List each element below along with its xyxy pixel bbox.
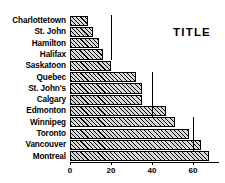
bar-row	[70, 72, 218, 83]
bar	[70, 95, 142, 105]
bar	[70, 117, 175, 127]
bar-row	[70, 128, 218, 139]
x-tick-label: 20	[107, 166, 116, 175]
category-label: Toronto	[36, 128, 66, 139]
category-label: St. John	[35, 26, 67, 37]
category-label: St. John's	[28, 83, 66, 94]
bar-row	[70, 139, 218, 150]
x-tick-label: 0	[68, 166, 72, 175]
category-label: Vancouver	[25, 139, 66, 150]
bar-row	[70, 83, 218, 94]
category-axis-labels: CharlottetownSt. JohnHamiltonHalifaxSask…	[0, 15, 68, 162]
bar-chart: TITLE CharlottetownSt. JohnHamiltonHalif…	[0, 0, 225, 183]
category-label: Montreal	[33, 151, 66, 162]
category-label: Quebec	[37, 72, 66, 83]
bar	[70, 49, 103, 59]
bar-row	[70, 105, 218, 116]
bar-row	[70, 38, 218, 49]
bar	[70, 72, 136, 82]
bar-row	[70, 49, 218, 60]
category-label: Hamilton	[32, 38, 66, 49]
bar	[70, 38, 99, 48]
category-label: Halifax	[40, 49, 66, 60]
bar	[70, 151, 209, 161]
x-tick-mark	[152, 162, 153, 165]
x-tick-mark	[193, 162, 194, 165]
bar	[70, 27, 93, 37]
bar-row	[70, 117, 218, 128]
plot-area	[70, 15, 218, 162]
category-label: Saskatoon	[25, 60, 66, 71]
bar-row	[70, 26, 218, 37]
category-label: Winnipeg	[30, 117, 66, 128]
dropline-40	[152, 72, 153, 117]
bar-row	[70, 94, 218, 105]
x-tick-mark	[70, 162, 71, 165]
bar-row	[70, 15, 218, 26]
bar	[70, 61, 111, 71]
category-label: Edmonton	[26, 105, 66, 116]
bar	[70, 140, 201, 150]
bar	[70, 129, 189, 139]
x-tick-label: 40	[148, 166, 157, 175]
bar	[70, 16, 88, 26]
bar-row	[70, 60, 218, 71]
dropline-20	[111, 15, 112, 60]
x-tick-mark	[111, 162, 112, 165]
x-axis-line	[70, 162, 219, 163]
dropline-60	[193, 117, 194, 151]
category-label: Calgary	[37, 94, 66, 105]
x-tick-label: 60	[189, 166, 198, 175]
bar	[70, 83, 142, 93]
bar-row	[70, 151, 218, 162]
category-label: Charlottetown	[12, 15, 66, 26]
